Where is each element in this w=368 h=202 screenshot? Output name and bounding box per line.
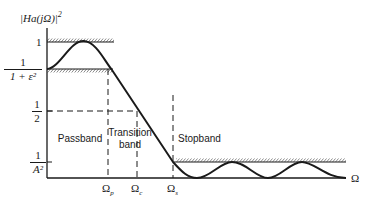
y-axis-label: |Ha(jΩ)|2	[20, 11, 62, 24]
y-tick-passband-edge: 1 1 + ε²	[4, 57, 42, 82]
y-tick-half: 1 2	[32, 99, 42, 124]
filter-response-diagram	[0, 0, 368, 202]
y-tick-stopband: 1 A²	[30, 150, 46, 175]
frac-den: A²	[30, 163, 46, 175]
magnitude-response-curve	[47, 41, 346, 178]
y-tick-one: 1	[36, 37, 42, 48]
y-axis-label-sup: 2	[58, 10, 62, 19]
transition-line2: band	[108, 139, 152, 151]
x-tick-omega-c: Ωc	[131, 182, 142, 197]
frac-num: 1	[4, 57, 42, 69]
x-tick-omega-s: Ωs	[167, 182, 178, 197]
stopband-tolerance	[174, 159, 346, 163]
region-passband: Passband	[55, 133, 105, 145]
region-stopband: Stopband	[178, 133, 224, 145]
frac-den: 1 + ε²	[4, 70, 42, 82]
frac-num: 1	[32, 99, 42, 111]
passband-lower-tolerance	[47, 69, 113, 73]
transition-line1: Transition	[108, 127, 152, 139]
x-tick-omega-p: Ωp	[102, 182, 114, 197]
region-transition: Transition band	[108, 127, 152, 151]
x-axis-label: Ω	[351, 172, 359, 184]
frac-num: 1	[30, 150, 46, 162]
frac-den: 2	[32, 112, 42, 124]
y-axis-label-text: |Ha(jΩ)|	[20, 12, 58, 24]
